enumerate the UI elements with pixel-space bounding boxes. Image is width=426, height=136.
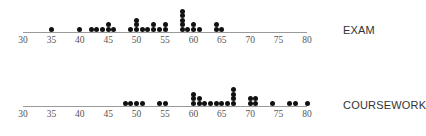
tick-label: 75 bbox=[274, 109, 284, 119]
tick-label: 60 bbox=[189, 35, 199, 45]
tick-label: 40 bbox=[75, 35, 85, 45]
tick-label: 70 bbox=[245, 109, 255, 119]
data-dot bbox=[231, 101, 236, 106]
coursework-series-label: COURSEWORK bbox=[343, 99, 426, 111]
tick-label: 45 bbox=[103, 35, 113, 45]
data-dot bbox=[180, 27, 185, 32]
data-dot bbox=[208, 101, 213, 106]
tick-label: 35 bbox=[47, 109, 57, 119]
data-dot bbox=[123, 101, 128, 106]
data-dot bbox=[214, 101, 219, 106]
data-dot bbox=[214, 27, 219, 32]
data-dot bbox=[134, 18, 139, 23]
data-dot bbox=[231, 87, 236, 92]
tick-label: 70 bbox=[245, 35, 255, 45]
exam-axis-line bbox=[23, 32, 307, 33]
tick-label: 80 bbox=[302, 109, 312, 119]
data-dot bbox=[163, 27, 168, 32]
data-dot bbox=[253, 96, 258, 101]
data-dot bbox=[197, 101, 202, 106]
tick-label: 75 bbox=[274, 35, 284, 45]
tick-label: 65 bbox=[217, 109, 227, 119]
data-dot bbox=[140, 27, 145, 32]
tick-label: 35 bbox=[47, 35, 57, 45]
tick-label: 60 bbox=[189, 109, 199, 119]
tick-label: 55 bbox=[160, 109, 170, 119]
data-dot bbox=[225, 101, 230, 106]
data-dot bbox=[106, 27, 111, 32]
data-dot bbox=[197, 27, 202, 32]
data-dot bbox=[157, 101, 162, 106]
tick-label: 65 bbox=[217, 35, 227, 45]
data-dot bbox=[157, 27, 162, 32]
exam-dot-plot: 3035404550556065707580 EXAM bbox=[0, 0, 421, 68]
data-dot bbox=[163, 101, 168, 106]
data-dot bbox=[134, 22, 139, 27]
tick-label: 30 bbox=[18, 35, 28, 45]
coursework-axis-line bbox=[23, 106, 307, 107]
tick-label: 50 bbox=[132, 35, 142, 45]
tick-label: 45 bbox=[103, 109, 113, 119]
data-dot bbox=[248, 101, 253, 106]
data-dot bbox=[180, 13, 185, 18]
tick-label: 50 bbox=[132, 109, 142, 119]
tick-label: 30 bbox=[18, 109, 28, 119]
data-dot bbox=[100, 27, 105, 32]
data-dot bbox=[191, 27, 196, 32]
data-dot bbox=[163, 22, 168, 27]
data-dot bbox=[49, 27, 54, 32]
tick-label: 80 bbox=[302, 35, 312, 45]
tick-label: 40 bbox=[75, 109, 85, 119]
coursework-dot-plot: 3035404550556065707580 COURSEWORK bbox=[0, 68, 421, 136]
data-dot bbox=[305, 101, 310, 106]
tick-label: 55 bbox=[160, 35, 170, 45]
data-dot bbox=[191, 92, 196, 97]
data-dot bbox=[231, 92, 236, 97]
data-dot bbox=[151, 22, 156, 27]
data-dot bbox=[89, 27, 94, 32]
exam-series-label: EXAM bbox=[343, 24, 375, 36]
data-dot bbox=[180, 9, 185, 14]
data-dot bbox=[180, 18, 185, 23]
data-dot bbox=[140, 101, 145, 106]
data-dot bbox=[191, 101, 196, 106]
data-dot bbox=[180, 22, 185, 27]
